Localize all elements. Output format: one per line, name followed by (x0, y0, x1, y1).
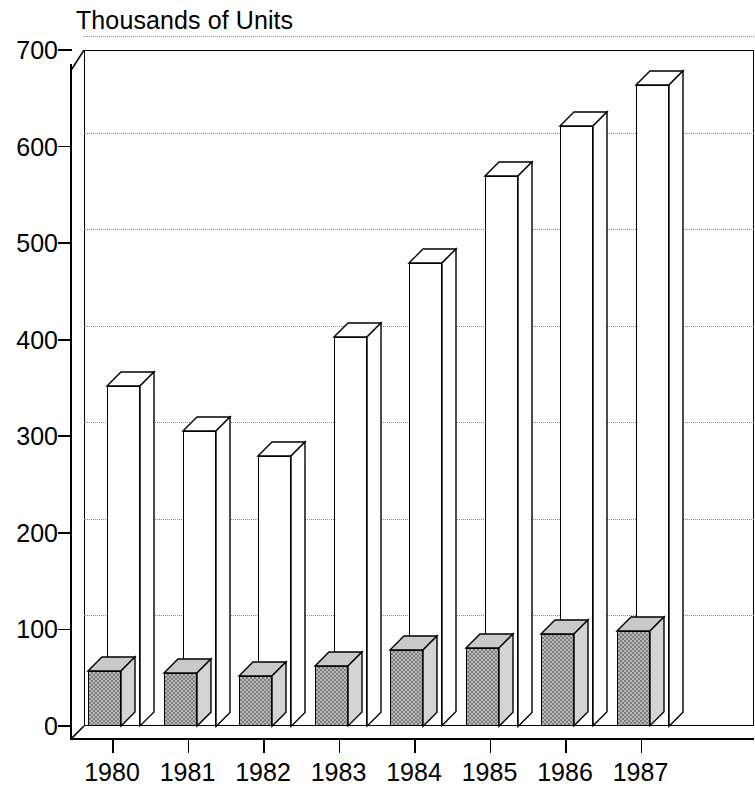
bar-side-face (499, 634, 513, 726)
y-axis-labels: 0100200300400500600700 (0, 50, 58, 740)
y-axis-tick (58, 49, 72, 51)
bar-side-face (140, 372, 154, 726)
y-axis-tick-label: 200 (16, 518, 58, 547)
y-axis-tick (58, 435, 72, 437)
y-axis-tick-label: 600 (16, 132, 58, 161)
y-axis-tick-label: 300 (16, 422, 58, 451)
x-axis-tick (339, 740, 341, 753)
bar-top-face (466, 634, 499, 648)
bar-side-face (348, 652, 362, 726)
y-axis-tick-label: 400 (16, 325, 58, 354)
x-axis-tick-label: 1987 (613, 758, 669, 787)
y-axis-tick (58, 242, 72, 244)
x-axis-tick (414, 740, 416, 753)
bar-side-face (518, 162, 532, 726)
bar-top-face (258, 442, 291, 456)
bar-shaded-1984 (390, 650, 423, 726)
bar-face (88, 671, 121, 726)
bar-top-face (541, 620, 574, 634)
bar-top-face (164, 659, 197, 673)
chart-title: Thousands of Units (76, 6, 293, 35)
bar-face (239, 676, 272, 726)
x-axis-tick-label: 1982 (235, 758, 291, 787)
bar-top-face (617, 617, 650, 631)
y-axis-tick (58, 629, 72, 631)
bar-top-face (239, 662, 272, 676)
bar-face (390, 650, 423, 726)
x-axis-tick (565, 740, 567, 753)
bar-top-face (409, 249, 442, 263)
bar-side-face (197, 659, 211, 726)
bar-top-face (390, 636, 423, 650)
bar-shaded-1982 (239, 676, 272, 726)
bar-shaded-1980 (88, 671, 121, 726)
bar-face (164, 673, 197, 726)
x-axis-tick (263, 740, 265, 753)
bar-chart: Thousands of Units 010020030040050060070… (0, 0, 755, 810)
bar-top-face (485, 162, 518, 176)
y-axis-tick (58, 339, 72, 341)
bar-shaded-1983 (315, 666, 348, 726)
bar-side-face (650, 617, 664, 726)
bar-side-face (121, 657, 135, 726)
bar-side-face (574, 620, 588, 726)
y-axis-tick-label: 0 (44, 712, 58, 741)
bar-shaded-1981 (164, 673, 197, 726)
plot-area (70, 50, 754, 740)
bar-top-face (183, 417, 216, 431)
y-axis-tick (58, 725, 72, 727)
bar-side-face (593, 112, 607, 726)
bar-face (466, 648, 499, 726)
bar-side-face (291, 442, 305, 726)
x-axis-tick-label: 1981 (160, 758, 216, 787)
bar-top-face (334, 323, 367, 337)
bar-shaded-1986 (541, 634, 574, 726)
y-axis-tick (58, 146, 72, 148)
gridline (84, 36, 754, 37)
bar-side-face (216, 417, 230, 727)
bar-side-face (669, 71, 683, 726)
bar-top-face (560, 112, 593, 126)
bar-side-face (442, 249, 456, 726)
bar-side-face (367, 323, 381, 726)
y-axis-line (70, 64, 72, 740)
x-axis-tick-label: 1986 (537, 758, 593, 787)
y-axis-tick-label: 500 (16, 229, 58, 258)
x-axis-tick (188, 740, 190, 753)
x-axis-line (70, 738, 754, 740)
bar-top-face (107, 372, 140, 386)
bar-face (315, 666, 348, 726)
bar-shaded-1987 (617, 631, 650, 726)
x-axis-tick-label: 1985 (462, 758, 518, 787)
y-axis-tick-label: 700 (16, 36, 58, 65)
bar-side-face (423, 636, 437, 726)
x-axis-tick (641, 740, 643, 753)
bar-top-face (88, 657, 121, 671)
x-axis-tick-label: 1980 (84, 758, 140, 787)
bar-top-face (636, 71, 669, 85)
x-axis-tick-label: 1983 (311, 758, 367, 787)
y-axis-tick (58, 532, 72, 534)
x-axis-tick (112, 740, 114, 753)
bar-top-face (315, 652, 348, 666)
bar-face (541, 634, 574, 726)
bar-shaded-1985 (466, 648, 499, 726)
bar-face (617, 631, 650, 726)
x-axis-tick (490, 740, 492, 753)
y-axis-tick-label: 100 (16, 615, 58, 644)
x-axis-tick-label: 1984 (386, 758, 442, 787)
depth-connector-top (70, 50, 92, 72)
bar-side-face (272, 662, 286, 726)
